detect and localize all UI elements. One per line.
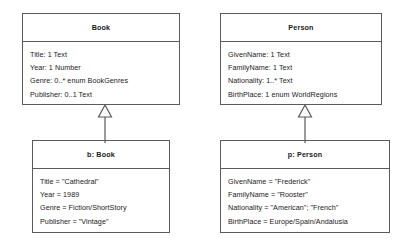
class-attribute: Publisher: 0..1 Text [30,88,179,101]
class-attribute: Nationality: 1..* Text [228,74,381,87]
object-slots-person: GivenName = "Frederick" FamilyName = "Ro… [221,169,389,228]
class-attribute: Title: 1 Text [30,48,179,61]
class-attribute: GivenName: 1 Text [228,48,381,61]
object-slots-book: Title = "Cathedral" Year = 1989 Genre = … [33,169,169,228]
object-slot: Title = "Cathedral" [40,175,169,188]
object-box-person[interactable]: p: Person GivenName = "Frederick" Family… [220,140,390,233]
object-slot: GivenName = "Frederick" [228,175,389,188]
instance-of-arrow-person [294,103,316,143]
object-name-book: b: Book [33,141,169,169]
uml-diagram-canvas: Book Title: 1 Text Year: 1 Number Genre:… [0,0,413,244]
object-box-book[interactable]: b: Book Title = "Cathedral" Year = 1989 … [32,140,170,233]
class-attribute: BirthPlace: 1 enum WorldRegions [228,88,381,101]
class-box-person[interactable]: Person GivenName: 1 Text FamilyName: 1 T… [220,13,382,105]
class-box-book[interactable]: Book Title: 1 Text Year: 1 Number Genre:… [22,13,180,105]
object-slot: FamilyName = "Rooster" [228,188,389,201]
class-attributes-person: GivenName: 1 Text FamilyName: 1 Text Nat… [221,42,381,101]
class-name-person: Person [221,14,381,42]
class-attributes-book: Title: 1 Text Year: 1 Number Genre: 0..*… [23,42,179,101]
class-attribute: Year: 1 Number [30,61,179,74]
object-slot: Genre = Fiction/ShortStory [40,201,169,214]
object-name-person: p: Person [221,141,389,169]
object-slot: Year = 1989 [40,188,169,201]
class-attribute: FamilyName: 1 Text [228,61,381,74]
object-slot: Publisher = "Vintage" [40,215,169,228]
class-attribute: Genre: 0..* enum BookGenres [30,74,179,87]
object-slot: Nationality = "American"; "French" [228,201,389,214]
instance-of-arrow-book [94,103,116,143]
class-name-book: Book [23,14,179,42]
object-slot: BirthPlace = Europe/Spain/Andalusia [228,215,389,228]
